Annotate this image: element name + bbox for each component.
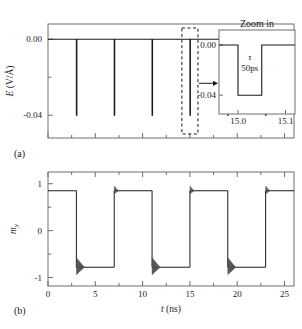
panel-b-frame <box>48 172 294 286</box>
panel-b-ringing-spike <box>152 258 160 275</box>
zoom-arrow-head <box>213 81 218 86</box>
panel-b-ytick-label: -1 <box>35 273 43 283</box>
inset-tau-value: 50ps <box>241 63 259 73</box>
panel-b-ylabel-text: my <box>8 223 19 234</box>
panel-a-ylabel: E (V/Å) <box>4 66 16 98</box>
figure-container: 0.00-0.04Zoom in0.00-0.0415.015.1τ50psE … <box>0 0 302 329</box>
panel-b-ylabel: my <box>8 223 19 234</box>
panel-b-xtick-label: 0 <box>46 289 51 299</box>
inset-xtick-label: 15.0 <box>230 116 246 126</box>
panel-b-xtick-label: 15 <box>185 289 195 299</box>
panel-b-xtick-label: 10 <box>138 289 148 299</box>
figure-svg: 0.00-0.04Zoom in0.00-0.0415.015.1τ50psE … <box>0 0 302 329</box>
panel-b-ytick-label: 1 <box>38 179 43 189</box>
panel-b-xtick-label: 20 <box>233 289 243 299</box>
panel-a-ylabel-text: E (V/Å) <box>4 66 16 98</box>
inset-ytick-label: 0.00 <box>200 40 216 50</box>
inset-title: Zoom in <box>240 18 274 29</box>
panel-b-ytick-label: 0 <box>38 226 43 236</box>
inset-xtick-label: 15.1 <box>278 116 294 126</box>
panel-b: 10-10510152025 <box>35 172 295 299</box>
panel-b-xtick-label: 25 <box>280 289 290 299</box>
panel-b-xlabel: t (ns) <box>161 304 181 315</box>
inset-zoom-in: Zoom in0.00-0.0415.015.1τ50ps <box>197 18 295 126</box>
panel-a-label: (a) <box>14 148 25 160</box>
panel-b-waveform <box>48 191 294 267</box>
panel-a-ytick-label: -0.04 <box>23 110 42 120</box>
panel-b-ringing-spike <box>228 258 236 275</box>
inset-ytick-label: -0.04 <box>197 90 216 100</box>
panel-b-label: (b) <box>14 305 26 317</box>
panel-b-ringing-spike <box>190 186 194 194</box>
panel-b-ringing-spike <box>266 186 270 194</box>
panel-b-ringing-spike <box>76 258 84 275</box>
panel-b-xtick-label: 5 <box>93 289 98 299</box>
panel-a-ytick-label: 0.00 <box>26 34 42 44</box>
panel-b-ringing-spike <box>114 186 118 194</box>
